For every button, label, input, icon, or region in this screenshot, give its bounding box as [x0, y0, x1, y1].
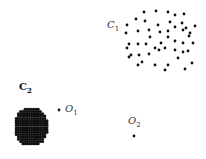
data-point — [182, 29, 185, 32]
data-point — [137, 30, 140, 33]
data-point — [182, 51, 185, 54]
data-point — [137, 64, 140, 67]
data-point — [137, 43, 140, 46]
data-point — [181, 22, 184, 25]
data-point — [126, 47, 129, 50]
data-point — [194, 25, 197, 28]
data-point — [167, 64, 170, 67]
data-point — [167, 11, 170, 14]
data-point — [167, 36, 170, 39]
data-point — [159, 31, 162, 34]
cluster-c2-label: C2 — [19, 82, 32, 94]
data-point — [130, 54, 133, 57]
data-point — [189, 32, 192, 35]
data-point — [141, 61, 144, 64]
data-point — [154, 47, 157, 50]
data-point — [160, 42, 163, 45]
data-point — [184, 68, 187, 71]
data-point — [188, 35, 191, 38]
data-point — [46, 131, 49, 134]
outlier-o2-label: O2 — [128, 116, 141, 129]
data-point — [154, 64, 157, 67]
data-point — [155, 10, 158, 13]
data-point — [126, 24, 129, 27]
cluster-c1-label: C1 — [107, 20, 119, 33]
data-point — [143, 11, 146, 14]
data-point — [37, 142, 40, 145]
outlier-o1-label: O1 — [65, 104, 78, 117]
data-point — [191, 62, 194, 65]
data-point — [164, 69, 167, 72]
data-point — [128, 43, 131, 46]
data-point — [187, 50, 190, 53]
cluster-c1-points — [125, 10, 197, 72]
data-point — [158, 49, 161, 52]
data-point — [149, 36, 152, 39]
data-point — [135, 18, 138, 21]
data-point — [185, 27, 188, 30]
scatter-diagram — [0, 0, 206, 159]
data-point — [133, 135, 136, 138]
data-point — [164, 47, 167, 50]
data-point — [43, 135, 46, 138]
data-point — [177, 57, 180, 60]
data-point — [183, 13, 186, 16]
data-point — [144, 20, 147, 23]
data-point — [145, 43, 148, 46]
cluster-c2-points — [15, 108, 49, 146]
data-point — [174, 26, 177, 29]
data-point — [174, 40, 177, 43]
data-point — [182, 42, 185, 45]
data-point — [157, 24, 160, 27]
data-point — [174, 49, 177, 52]
data-point — [148, 53, 151, 56]
data-point — [125, 32, 128, 35]
data-point — [174, 14, 177, 17]
data-point — [128, 56, 131, 59]
data-point — [41, 140, 44, 143]
data-point — [58, 109, 61, 112]
data-point — [167, 30, 170, 33]
data-point — [138, 54, 141, 57]
data-point — [192, 42, 195, 45]
data-point — [169, 21, 172, 24]
data-point — [148, 29, 151, 32]
